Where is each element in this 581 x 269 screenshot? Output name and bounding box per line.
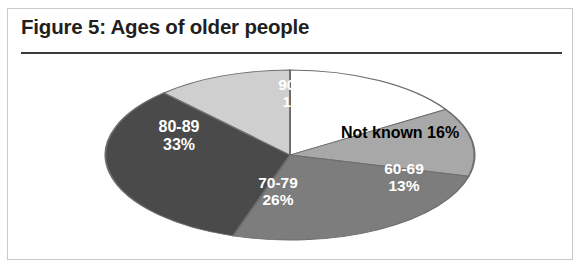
pie-chart-svg (0, 56, 581, 256)
page-title: Figure 5: Ages of older people (21, 15, 309, 39)
title-divider (21, 52, 562, 54)
figure-container: Figure 5: Ages of older people (0, 0, 581, 269)
pie-chart: 90-99 12% 80-89 33% Not known 16% 60-69 … (0, 56, 581, 256)
